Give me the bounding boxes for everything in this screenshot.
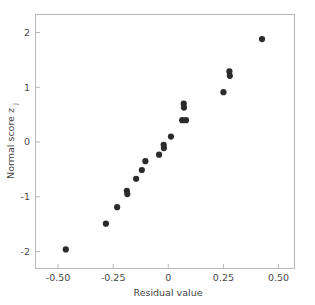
x-axis-title: Residual value <box>133 287 202 298</box>
y-tick-label: 1 <box>24 82 30 93</box>
x-tick-label: 0 <box>165 272 171 283</box>
data-point <box>103 221 109 227</box>
data-point <box>183 117 189 123</box>
y-tick-label: -1 <box>21 191 30 202</box>
data-point <box>139 167 145 173</box>
data-point <box>181 104 187 110</box>
plot-frame <box>36 15 295 269</box>
data-point <box>168 133 174 139</box>
x-tick-label: -0.50 <box>46 272 71 283</box>
data-point <box>227 73 233 79</box>
normal-probability-plot-figure: -0.50-0.2500.250.50 210-1-2 Residual val… <box>0 0 315 305</box>
data-point <box>133 176 139 182</box>
x-axis-tick-labels: -0.50-0.2500.250.50 <box>46 272 289 283</box>
data-point <box>142 158 148 164</box>
x-tick-label: 0.50 <box>268 272 289 283</box>
y-tick-label: -2 <box>21 246 30 257</box>
y-axis-subscript: j <box>11 103 19 106</box>
x-axis-ticks <box>58 264 279 268</box>
data-point <box>161 145 167 151</box>
data-points-layer <box>63 36 265 252</box>
data-point <box>259 36 265 42</box>
data-point <box>124 191 130 197</box>
data-point <box>63 246 69 252</box>
data-point <box>220 89 226 95</box>
y-axis-ticks <box>36 33 40 252</box>
scatter-plot-canvas: -0.50-0.2500.250.50 210-1-2 Residual val… <box>0 0 315 305</box>
y-axis-title: Normal score z j <box>5 103 19 179</box>
y-axis-tick-labels: 210-1-2 <box>21 27 30 257</box>
x-tick-label: -0.25 <box>101 272 126 283</box>
data-point <box>114 204 120 210</box>
x-tick-label: 0.25 <box>213 272 234 283</box>
data-point <box>156 152 162 158</box>
y-tick-label: 2 <box>24 27 30 38</box>
y-tick-label: 0 <box>24 136 30 147</box>
